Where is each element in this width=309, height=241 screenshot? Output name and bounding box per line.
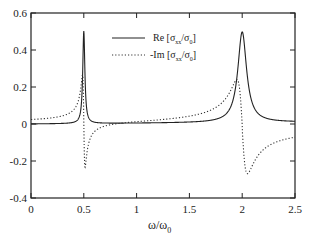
- re-sigma-line: [31, 31, 295, 124]
- y-tick-labels: 0.60.40.20-0.2-0.4: [10, 7, 28, 204]
- x-tick-label: 2: [239, 203, 245, 215]
- im-sigma-line: [31, 75, 295, 174]
- y-tick-label: 0: [22, 118, 28, 130]
- x-tick-label: 2.5: [288, 203, 302, 215]
- x-tick-labels: 00.511.522.5: [28, 203, 302, 215]
- y-tick-label: 0.6: [13, 7, 27, 19]
- x-tick-label: 0: [28, 203, 34, 215]
- x-tick-label: 1.5: [183, 203, 197, 215]
- chart: 0.60.40.20-0.2-0.4 00.511.522.5 Re [σxx/…: [0, 0, 309, 241]
- y-tick-label: 0.4: [13, 44, 27, 56]
- x-axis-label: ω/ω0: [148, 218, 171, 235]
- legend-label-re: Re [σxx/σ0]: [153, 32, 196, 45]
- legend-label-im: -Im [σxx/σ0]: [150, 49, 196, 62]
- y-tick-label: -0.2: [10, 155, 27, 167]
- legend: Re [σxx/σ0] -Im [σxx/σ0]: [112, 32, 196, 62]
- x-tick-label: 0.5: [77, 203, 91, 215]
- x-tick-label: 1: [134, 203, 140, 215]
- y-tick-label: -0.4: [10, 192, 28, 204]
- y-tick-label: 0.2: [13, 81, 27, 93]
